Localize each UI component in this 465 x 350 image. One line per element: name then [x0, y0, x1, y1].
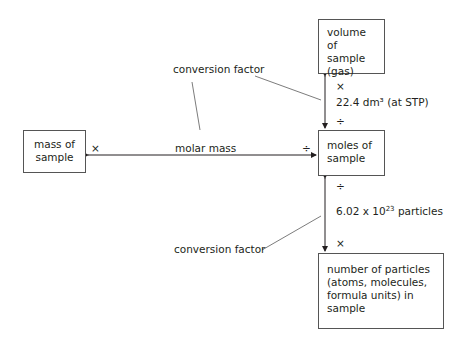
mass-box: mass of sample [23, 130, 86, 173]
moles-box: moles of sample [318, 130, 385, 176]
volume-multiply-op: × [336, 80, 345, 93]
particles-factor-label: 6.02 x 1023 particles [336, 205, 443, 218]
particles-factor-exponent: 23 [386, 205, 395, 213]
callout-line-volume [255, 76, 321, 100]
moles-divide-op-bottom: ÷ [336, 180, 345, 193]
particles-factor-unit: particles [395, 205, 443, 217]
volume-box: volume of sample (gas) [318, 19, 385, 74]
conversion-factor-label-top: conversion factor [173, 63, 264, 76]
moles-divide-op-top: ÷ [336, 115, 345, 128]
callout-line-particles [262, 216, 321, 250]
particles-multiply-op: × [336, 237, 345, 250]
particles-box: number of particles (atoms, molecules, f… [318, 253, 444, 329]
moles-box-label: moles of sample [327, 139, 372, 164]
volume-factor-label: 22.4 dm³ (at STP) [336, 96, 429, 109]
callout-line-molar [192, 82, 200, 130]
conversion-factor-label-bottom: conversion factor [174, 243, 265, 256]
volume-box-label: volume of sample (gas) [327, 26, 366, 77]
moles-divide-op-left: ÷ [302, 142, 311, 155]
mass-multiply-op: × [91, 142, 100, 155]
particles-box-label: number of particles (atoms, molecules, f… [327, 263, 430, 314]
particles-factor-base: 6.02 x 10 [336, 205, 386, 217]
mass-box-label: mass of sample [34, 138, 75, 163]
molar-mass-label: molar mass [175, 142, 236, 155]
